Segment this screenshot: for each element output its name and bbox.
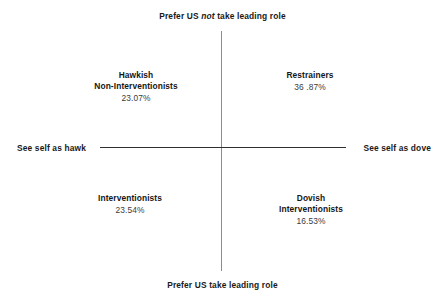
axis-pole-top: Prefer US not take leading role — [0, 11, 445, 21]
quadrant-label-bottom-right: Dovish Interventionists 16.53% — [231, 193, 391, 228]
quadrant-value: 36 .87% — [230, 82, 390, 93]
quadrant-name-line2: Interventionists — [231, 204, 391, 215]
quadrant-value: 23.07% — [56, 93, 216, 104]
quadrant-name-line1: Interventionists — [50, 193, 210, 204]
quadrant-label-top-left: Hawkish Non-Interventionists 23.07% — [56, 70, 216, 105]
vertical-axis-line — [221, 31, 222, 271]
quadrant-name-line1: Restrainers — [230, 70, 390, 81]
axis-pole-bottom: Prefer US take leading role — [0, 280, 445, 290]
horizontal-axis-line — [100, 147, 346, 148]
quadrant-label-top-right: Restrainers 36 .87% — [230, 70, 390, 93]
axis-pole-left: See self as hawk — [17, 143, 86, 153]
quadrant-name-line1: Hawkish — [56, 70, 216, 81]
quadrant-value: 23.54% — [50, 205, 210, 216]
quadrant-chart: Prefer US not take leading role Prefer U… — [0, 0, 445, 303]
quadrant-label-bottom-left: Interventionists 23.54% — [50, 193, 210, 216]
quadrant-name-line2: Non-Interventionists — [56, 81, 216, 92]
axis-pole-right: See self as dove — [363, 143, 431, 153]
axis-pole-top-prefix: Prefer US — [159, 11, 201, 21]
quadrant-name-line1: Dovish — [231, 193, 391, 204]
axis-pole-top-suffix: take leading role — [215, 11, 286, 21]
axis-pole-top-emphasis: not — [201, 11, 214, 21]
quadrant-value: 16.53% — [231, 216, 391, 227]
